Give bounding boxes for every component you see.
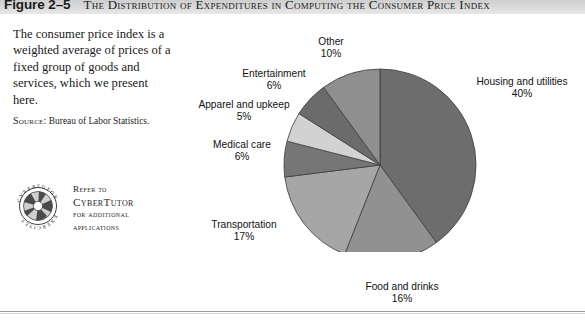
- pie-label-medical-care: Medical care 6%: [197, 139, 287, 164]
- source-label: Source:: [13, 115, 46, 126]
- pie-label-food-pct: 16%: [350, 293, 454, 305]
- pie-label-medical-pct: 6%: [197, 151, 287, 163]
- cybertutor-line-4: applications: [73, 221, 134, 234]
- cybertutor-blurb: Refer to CyberTutor for additional appli…: [73, 183, 134, 233]
- pie-label-other-pct: 10%: [300, 48, 362, 60]
- cybertutor-pinwheel-icon: CYBERTUTOR EXERCISES: [12, 180, 64, 232]
- cybertutor-badge: CYBERTUTOR EXERCISES: [12, 180, 64, 232]
- pie-label-transportation: Transportation 17%: [192, 219, 296, 244]
- source-text: Bureau of Labor Statistics.: [49, 116, 150, 126]
- bottom-divider-shadow: [0, 313, 585, 314]
- pie-label-food-name: Food and drinks: [365, 281, 438, 292]
- pie-label-apparel-pct: 5%: [182, 111, 306, 123]
- pie-label-apparel-and-upkeep: Apparel and upkeep 5%: [182, 99, 306, 124]
- pie-label-entertainment-name: Entertainment: [242, 68, 305, 79]
- figure-title-row: Figure 2–5The Distribution of Expenditur…: [4, 0, 490, 13]
- pie-label-apparel-name: Apparel and upkeep: [198, 99, 289, 110]
- pie-label-transportation-name: Transportation: [211, 219, 276, 230]
- caption-text: The consumer price index is a weighted a…: [13, 26, 173, 108]
- pie-label-entertainment: Entertainment 6%: [222, 68, 326, 93]
- pie-label-other-name: Other: [318, 36, 343, 47]
- pie-label-other: Other 10%: [300, 36, 362, 61]
- pie-label-housing-pct: 40%: [462, 88, 582, 100]
- pie-label-entertainment-pct: 6%: [222, 80, 326, 92]
- cybertutor-line-3: for additional: [73, 208, 134, 221]
- cybertutor-line-2: CyberTutor: [73, 196, 134, 209]
- pie-label-housing-and-utilities: Housing and utilities 40%: [462, 76, 582, 101]
- figure-title: The Distribution of Expenditures in Comp…: [84, 0, 490, 12]
- pie-label-food-and-drinks: Food and drinks 16%: [350, 281, 454, 306]
- pie-slice-group: [284, 69, 476, 252]
- pie-label-housing-name: Housing and utilities: [476, 76, 567, 87]
- cybertutor-line-1: Refer to: [73, 183, 134, 196]
- pie-label-medical-name: Medical care: [213, 139, 271, 150]
- source-line: Source: Bureau of Labor Statistics.: [13, 115, 193, 126]
- figure-number: Figure 2–5: [4, 0, 71, 12]
- pie-label-transportation-pct: 17%: [192, 231, 296, 243]
- bottom-divider: [0, 311, 585, 312]
- figure-page: Figure 2–5The Distribution of Expenditur…: [0, 0, 585, 326]
